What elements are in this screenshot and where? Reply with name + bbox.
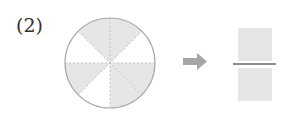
denominator-box[interactable] xyxy=(238,68,272,101)
numerator-box[interactable] xyxy=(238,28,272,61)
circle-sector-shaded xyxy=(110,18,142,63)
diagram-canvas xyxy=(0,0,296,118)
circle-sector-shaded xyxy=(65,63,110,95)
fraction-circle xyxy=(65,18,155,108)
fraction-answer xyxy=(233,28,276,101)
circle-sector-shaded xyxy=(78,18,110,63)
right-arrow-icon xyxy=(183,53,207,70)
